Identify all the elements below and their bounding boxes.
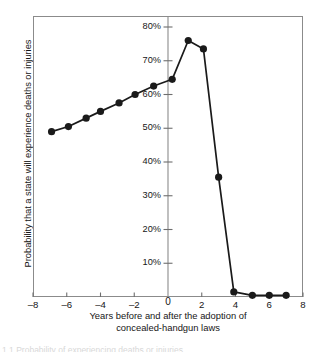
y-tick-label: 60% [143,89,161,99]
y-tick-label: 30% [143,190,161,200]
y-tick-label: 20% [143,224,161,234]
series-markers [48,37,290,299]
x-axis-title-line-2: concealed-handgun laws [33,322,303,334]
x-axis-title: Years before and after the adoption of c… [33,310,303,333]
y-tick-label: 10% [143,257,161,267]
cropped-caption: 1.1 Probability of experiencing deaths o… [2,345,202,352]
y-tick-label: 80% [143,21,161,31]
chart-figure: Probability that a state will experience… [0,0,319,352]
y-tick-label: 50% [143,122,161,132]
x-tick-label: 8 [283,299,319,310]
y-tick-label: 40% [143,156,161,166]
x-axis-title-line-1: Years before and after the adoption of [33,310,303,322]
y-tick-label: 70% [143,55,161,65]
